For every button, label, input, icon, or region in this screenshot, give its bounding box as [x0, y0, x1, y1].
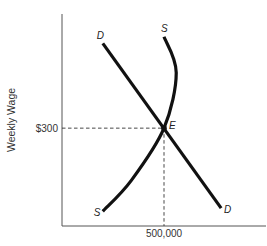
equilibrium-point: [161, 125, 167, 131]
supply-label-bottom: S: [94, 207, 101, 218]
x-tick-label-500000: 500,000: [146, 228, 183, 239]
supply-curve: [103, 37, 176, 211]
demand-label-bottom: D: [224, 204, 231, 215]
y-tick-label-300: $300: [36, 123, 59, 134]
equilibrium-label: E: [169, 120, 176, 131]
supply-label-top: S: [161, 23, 168, 34]
demand-curve: [103, 43, 221, 208]
demand-label-top: D: [97, 30, 104, 41]
labor-market-chart: Weekly Wage $300 500,000 D D S S E: [0, 0, 267, 246]
y-axis-label: Weekly Wage: [5, 88, 17, 152]
